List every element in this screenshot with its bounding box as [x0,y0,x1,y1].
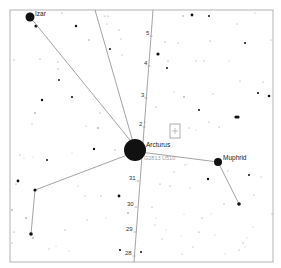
field-star [34,112,36,114]
field-star [164,41,165,42]
field-star [33,157,34,158]
field-star [49,249,50,250]
field-star [107,24,108,25]
field-star [119,249,121,251]
field-star [58,79,60,81]
field-star [239,250,240,251]
field-star [173,171,174,172]
field-star [151,206,152,207]
field-star [93,148,95,150]
field-star [229,61,230,62]
field-star [78,186,79,187]
field-star [204,61,205,62]
field-star [242,242,243,243]
field-star [32,237,34,239]
field-star [140,251,142,253]
field-star [121,39,122,40]
field-star [159,183,160,184]
field-star [167,60,168,61]
field-star [207,178,209,180]
field-star [56,246,57,247]
field-star [261,177,262,178]
field-star [97,127,99,129]
field-star [185,165,186,166]
field-star [88,39,89,40]
field-star [193,247,194,248]
constellation-star [237,202,241,206]
field-star [272,214,273,215]
field-star [85,196,86,197]
field-star [156,52,159,55]
field-star [189,128,190,129]
field-star [190,188,191,189]
field-star [166,67,168,69]
field-star [247,238,248,239]
star-arcturus[interactable] [124,139,146,161]
field-star [182,15,183,16]
field-star [208,15,210,17]
field-star [237,24,238,25]
field-star [257,92,259,94]
field-star [17,180,20,183]
star-label-arcturus[interactable]: Arcturus [146,141,171,148]
field-star [15,183,16,184]
field-star [69,251,70,252]
field-star [32,124,33,125]
field-star [178,43,179,44]
field-star [127,212,129,214]
field-star [57,68,58,69]
constellation-star [29,232,33,236]
field-star [11,209,13,211]
field-star [209,40,210,41]
field-star [106,218,107,219]
star-label-izar[interactable]: Izar [35,10,47,17]
field-star [99,112,100,113]
field-star [13,59,14,60]
field-star [228,171,229,172]
designation-label: G2813 U510 [144,155,175,161]
field-star [248,174,250,176]
field-star [87,220,88,221]
field-star [271,40,272,41]
trajectory-tick-label: 29 [126,226,133,232]
field-star [254,195,255,196]
field-star [215,235,216,236]
field-star [174,92,175,93]
star-izar[interactable] [26,13,35,22]
field-star [75,25,77,27]
field-star [104,15,105,16]
field-star [209,122,210,123]
field-star [183,96,185,98]
field-star [19,154,20,155]
field-star [191,14,194,17]
field-star [182,254,183,255]
trajectory-tick-label: 31 [129,175,136,181]
field-star [240,81,241,82]
field-star [57,61,58,62]
field-star [211,214,212,215]
field-star [13,231,14,232]
field-star [100,195,101,196]
field-star [118,29,119,30]
field-star [118,195,121,198]
field-star [253,227,254,228]
field-star [213,94,214,95]
trajectory-tick-label: 28 [125,250,132,256]
constellation-star [33,188,36,191]
star-chart[interactable]: 543231302928 Izar Arcturus Muphrid G2813… [0,0,281,268]
field-star [71,96,73,98]
field-star [196,130,197,131]
field-star [109,48,111,50]
field-star [255,13,256,14]
field-star [86,126,87,127]
field-star [198,109,200,111]
field-star [169,185,170,186]
field-star [225,254,226,255]
field-star [155,106,156,107]
field-star [122,55,123,56]
star-muphrid[interactable] [214,158,222,166]
field-star [218,126,219,127]
star-label-muphrid[interactable]: Muphrid [223,154,247,162]
field-star [244,42,246,44]
field-star [114,149,115,150]
